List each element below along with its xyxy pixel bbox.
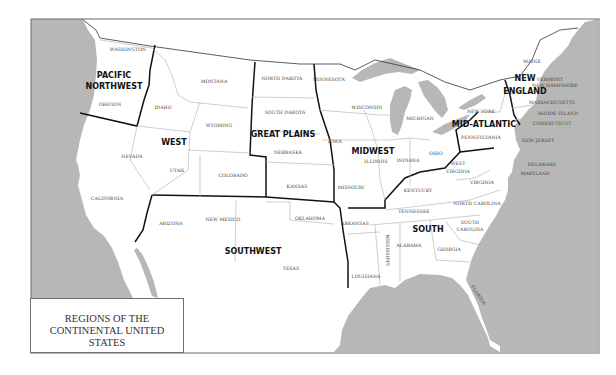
state-label-idaho: IDAHO bbox=[154, 105, 171, 110]
state-label-kansas: KANSAS bbox=[287, 184, 308, 189]
state-label-new-jersey: NEW JERSEY bbox=[522, 138, 556, 143]
state-label-georgia: GEORGIA bbox=[437, 247, 461, 252]
state-label-wyoming: WYOMING bbox=[206, 123, 233, 128]
state-label-north-carolina: NORTH CAROLINA bbox=[453, 201, 501, 206]
gulf-of-california bbox=[134, 248, 158, 298]
state-label-utah: UTAH bbox=[170, 168, 184, 173]
state-label-virginia: VIRGINIA bbox=[469, 180, 495, 185]
state-label-colorado: COLORADO bbox=[218, 173, 247, 178]
region-label-southwest: SOUTHWEST bbox=[225, 247, 282, 256]
state-label-minnesota: MINNESOTA bbox=[313, 77, 345, 82]
state-label-connecticut: CONNECTICUT bbox=[533, 121, 572, 126]
state-label-pennsylvania: PENNSYLVANIA bbox=[461, 135, 501, 140]
region-label-pacific-northwest-2: NORTHWEST bbox=[86, 82, 144, 91]
state-label-west-virginia: WEST bbox=[451, 161, 467, 166]
region-label-new-england: NEW bbox=[515, 74, 536, 83]
state-label-new-hampshire: NEW HAMPSHIRE bbox=[532, 83, 578, 88]
state-label-west-virginia-2: VIRGINIA bbox=[445, 169, 471, 174]
state-label-wisconsin: WISCONSIN bbox=[352, 105, 383, 110]
state-label-new-york: NEW YORK bbox=[467, 109, 496, 114]
state-label-nevada: NEVADA bbox=[121, 154, 143, 159]
state-label-massachusetts: MASSACHUSETTS bbox=[529, 100, 575, 105]
state-label-texas: TEXAS bbox=[283, 266, 300, 271]
state-label-ohio: OHIO bbox=[429, 151, 443, 156]
state-label-rhode-island: RHODE ISLAND bbox=[538, 111, 578, 116]
state-label-indiana: INDIANA bbox=[397, 158, 420, 163]
state-label-maryland: MARYLAND bbox=[520, 171, 549, 176]
map-title-line-2: CONTINENTAL UNITED STATES bbox=[31, 325, 183, 349]
state-label-montana: MONTANA bbox=[201, 79, 228, 84]
lake-ontario bbox=[458, 94, 486, 110]
state-label-maine: MAINE bbox=[523, 59, 541, 64]
region-label-great-plains: GREAT PLAINS bbox=[251, 130, 316, 139]
state-label-arkansas: ARKANSAS bbox=[340, 221, 369, 226]
state-label-oklahoma: OKLAHOMA bbox=[295, 216, 326, 221]
state-label-south-dakota: SOUTH DAKOTA bbox=[265, 110, 306, 115]
state-label-north-dakota: NORTH DAKOTA bbox=[261, 76, 303, 81]
state-label-new-mexico: NEW MEXICO bbox=[206, 217, 241, 222]
state-label-mississippi: MISSISSIPPI bbox=[385, 234, 390, 266]
region-label-new-england-2: ENGLAND bbox=[503, 87, 547, 96]
state-label-nebraska: NEBRASKA bbox=[274, 150, 303, 155]
regions-map: PACIFIC NORTHWEST WEST GREAT PLAINS MIDW… bbox=[0, 0, 616, 375]
state-label-washington: WASHINGTON bbox=[110, 47, 146, 52]
region-label-midwest: MIDWEST bbox=[351, 147, 395, 156]
map-title-box: REGIONS OF THE CONTINENTAL UNITED STATES bbox=[30, 298, 184, 353]
region-label-mid-atlantic: MID-ATLANTIC bbox=[452, 120, 516, 129]
state-label-illinois: ILLINOIS bbox=[364, 159, 387, 164]
state-label-tennessee: TENNESSEE bbox=[398, 209, 430, 214]
lake-michigan bbox=[390, 86, 412, 135]
state-label-south-carolina: SOUTH bbox=[461, 220, 479, 225]
state-label-south-carolina-2: CAROLINA bbox=[456, 227, 484, 232]
state-label-louisiana: LOUISIANA bbox=[351, 274, 381, 279]
region-label-west: WEST bbox=[161, 138, 187, 147]
state-label-california: CALIFORNIA bbox=[91, 196, 124, 201]
lake-huron bbox=[418, 80, 448, 118]
lake-superior bbox=[352, 58, 420, 82]
state-label-michigan: MICHIGAN bbox=[406, 116, 434, 121]
map-title-line-1: REGIONS OF THE bbox=[31, 313, 183, 325]
state-label-missouri: MISSOURI bbox=[338, 185, 365, 190]
region-label-south: SOUTH bbox=[412, 225, 443, 234]
region-label-pacific-northwest: PACIFIC bbox=[97, 71, 132, 80]
state-label-iowa: IOWA bbox=[328, 139, 342, 144]
pacific-ocean bbox=[31, 19, 137, 310]
state-label-oregon: OREGON bbox=[99, 102, 122, 107]
state-label-alabama: ALABAMA bbox=[395, 243, 422, 248]
state-label-delaware: DELAWARE bbox=[528, 162, 557, 167]
state-label-kentucky: KENTUCKY bbox=[404, 188, 433, 193]
state-label-vermont: VERMONT bbox=[536, 77, 564, 82]
state-label-arizona: ARIZONA bbox=[158, 221, 183, 226]
